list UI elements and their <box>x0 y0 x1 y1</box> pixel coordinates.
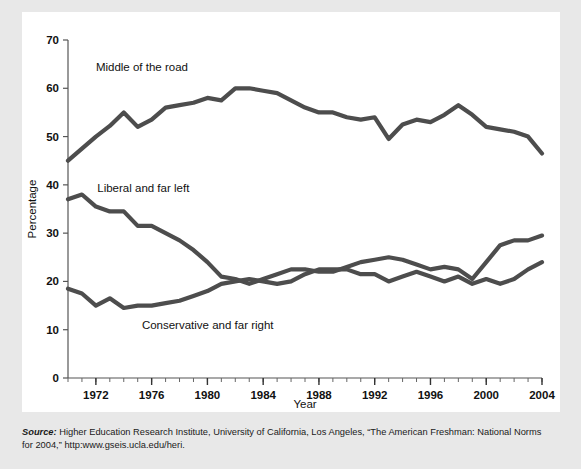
x-tick-label: 1996 <box>418 389 444 401</box>
x-tick-label: 1980 <box>195 389 221 401</box>
y-tick-label: 0 <box>53 372 59 384</box>
y-tick-label: 70 <box>46 34 59 46</box>
series-label-middle-of-the-road: Middle of the road <box>96 61 188 73</box>
x-tick-label: 2004 <box>529 389 555 401</box>
data-series-group <box>68 88 542 308</box>
series-label-liberal-and-far-left: Liberal and far left <box>97 182 190 194</box>
axes <box>68 40 542 378</box>
x-tick-label: 2000 <box>473 389 499 401</box>
y-tick-label: 20 <box>46 275 59 287</box>
source-body: Higher Education Research Institute, Uni… <box>22 427 541 450</box>
y-axis-title: Percentage <box>26 180 38 239</box>
line-chart: 010203040506070 197219761980198419881992… <box>22 12 560 412</box>
chart-figure-root: 010203040506070 197219761980198419881992… <box>0 0 581 469</box>
series-line-middle-of-the-road <box>68 88 542 160</box>
series-label-conservative-and-far-right: Conservative and far right <box>142 319 274 331</box>
x-tick-label: 1992 <box>362 389 388 401</box>
source-label: Source: <box>22 427 57 437</box>
y-tick-label: 60 <box>46 82 59 94</box>
y-axis-ticks: 010203040506070 <box>46 34 68 384</box>
series-inline-labels: Middle of the roadLiberal and far leftCo… <box>96 61 274 330</box>
figure-panel: 010203040506070 197219761980198419881992… <box>22 12 560 412</box>
y-tick-label: 10 <box>46 324 59 336</box>
x-axis-title: Year <box>293 398 316 410</box>
series-line-liberal-and-far-left <box>68 195 542 284</box>
x-axis-ticks: 197219761980198419881992199620002004 <box>83 378 555 401</box>
y-tick-label: 40 <box>46 179 59 191</box>
x-tick-label: 1976 <box>139 389 165 401</box>
source-note: Source: Higher Education Research Instit… <box>22 426 552 453</box>
x-tick-label: 1984 <box>250 389 276 401</box>
y-tick-label: 50 <box>46 131 59 143</box>
x-tick-label: 1972 <box>83 389 109 401</box>
y-tick-label: 30 <box>46 227 59 239</box>
